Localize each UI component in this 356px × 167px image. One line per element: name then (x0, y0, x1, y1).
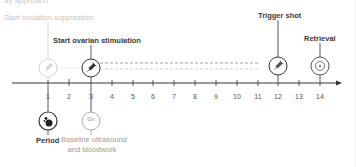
label-retrieval: Retrieval (304, 34, 336, 43)
dx-icon-text: Dx (81, 116, 101, 122)
axis-arrow-icon (336, 81, 342, 86)
day-label-14: 14 (310, 93, 330, 100)
label-start-ovarian-stimulation: Start ovarian stimulation (53, 36, 141, 45)
day-label-11: 11 (248, 93, 268, 100)
label-baseline-line2: and bloodwork (61, 145, 123, 155)
label-period: Period (36, 136, 59, 145)
label-baseline-line1: Baseline ultrasound (61, 135, 123, 145)
label-trigger-shot: Trigger shot (258, 11, 301, 20)
day-label-12: 12 (268, 93, 288, 100)
syringe-icon-day1 (39, 59, 57, 77)
day-label-2: 2 (59, 93, 79, 100)
target-icon-day14 (311, 57, 329, 75)
day-label-8: 8 (185, 93, 205, 100)
label-baseline-ultrasound: Baseline ultrasound and bloodwork (61, 135, 123, 155)
syringe-icon-day3 (82, 59, 100, 77)
day-label-3: 3 (81, 93, 101, 100)
blood-drop-icon-day1 (39, 112, 57, 130)
day-label-6: 6 (143, 93, 163, 100)
syringe-icon-day12 (269, 57, 287, 75)
day-label-13: 13 (289, 93, 309, 100)
day-label-7: 7 (164, 93, 184, 100)
day-label-10: 10 (227, 93, 247, 100)
day-label-1: 1 (38, 93, 58, 100)
day-label-5: 5 (123, 93, 143, 100)
day-label-9: 9 (206, 93, 226, 100)
day-label-4: 4 (102, 93, 122, 100)
label-start-ovulation-suppression: Start ovulation suppression (4, 13, 94, 22)
